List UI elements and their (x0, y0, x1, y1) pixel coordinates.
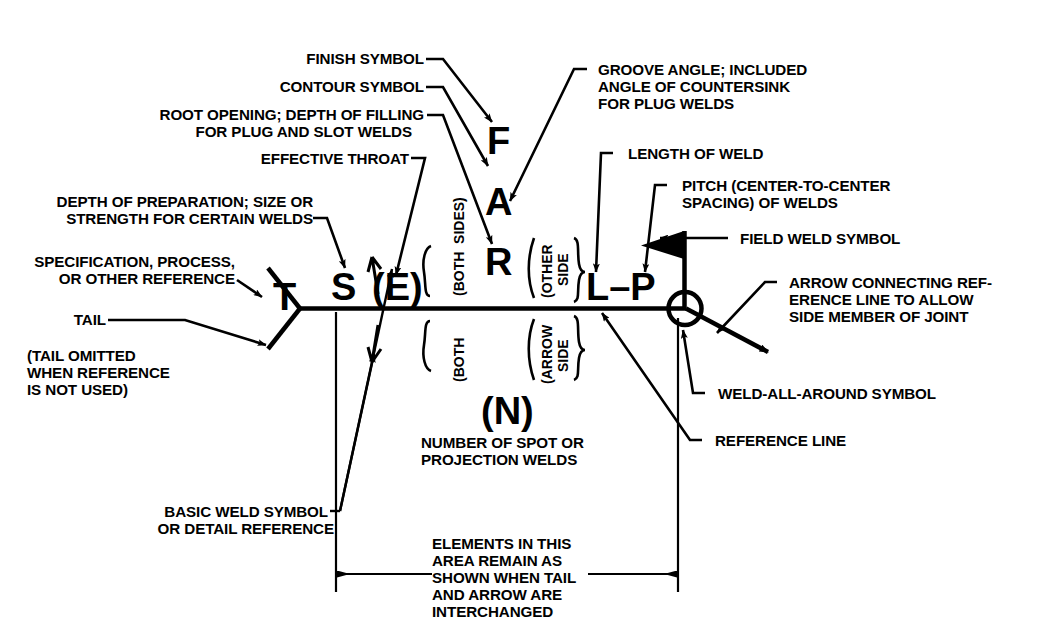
bracket-label-other-side-line1: (OTHER (540, 244, 555, 298)
label-elements-line2: AREA REMAIN AS (432, 552, 562, 570)
label-depth-preparation-line1: DEPTH OF PREPARATION; SIZE OR (0, 193, 313, 211)
welding-symbol-diagram: FINISH SYMBOL CONTOUR SYMBOL ROOT OPENIN… (0, 0, 1049, 639)
label-specification-line2: OR OTHER REFERENCE (0, 270, 235, 288)
label-tail-omitted-line1: (TAIL OMITTED (27, 347, 136, 365)
leader-pitch (645, 185, 667, 272)
label-number-spot-line2: PROJECTION WELDS (421, 451, 577, 469)
leader-specification (237, 280, 262, 297)
leader-effective-throat (396, 158, 425, 275)
symbol-contour-letter-A: A (485, 183, 512, 221)
symbol-throat-letter-E: (E) (372, 268, 423, 306)
label-specification-line1: SPECIFICATION, PROCESS, (0, 253, 235, 271)
leader-tail (108, 320, 266, 345)
label-length-of-weld: LENGTH OF WELD (628, 145, 763, 163)
symbol-finish-letter-F: F (487, 122, 510, 160)
label-root-opening-line2: FOR PLUG AND SLOT WELDS (0, 123, 412, 141)
symbol-size-letter-S: S (331, 268, 356, 306)
bracket-label-other-side-line2: SIDE (556, 253, 571, 286)
label-pitch-line1: PITCH (CENTER-TO-CENTER (682, 177, 890, 195)
bracket-label-both-sides-lower: (BOTH (452, 338, 467, 382)
other-side-paren (529, 238, 534, 298)
both-sides-brace-upper (423, 246, 431, 296)
label-tail: TAIL (0, 311, 106, 329)
leader-reference-line (602, 313, 702, 440)
label-tail-omitted-line2: WHEN REFERENCE (27, 364, 170, 382)
label-tail-omitted-line3: IS NOT USED) (27, 381, 128, 399)
arrow-side-paren (529, 319, 534, 380)
symbol-tail-letter-T: T (273, 278, 296, 316)
label-finish-symbol: FINISH SYMBOL (0, 50, 424, 68)
leader-groove-angle (510, 69, 587, 201)
bracket-label-both-sides-upper: (BOTH SIDES) (452, 197, 467, 296)
label-basic-weld-symbol-line2: OR DETAIL REFERENCE (0, 520, 334, 538)
symbol-root-letter-R: R (485, 243, 512, 281)
label-pitch-line2: SPACING) OF WELDS (682, 194, 838, 212)
label-arrow-connecting-line2: ERENCE LINE TO ALLOW (789, 291, 973, 309)
label-groove-angle-line1: GROOVE ANGLE; INCLUDED (598, 61, 807, 79)
label-root-opening-line1: ROOT OPENING; DEPTH OF FILLING (0, 106, 424, 124)
label-weld-all-around: WELD-ALL-AROUND SYMBOL (718, 385, 936, 403)
label-elements-line4: AND ARROW ARE (432, 586, 562, 604)
both-sides-brace-lower (423, 321, 431, 371)
label-depth-preparation-line2: STRENGTH FOR CERTAIN WELDS (0, 210, 313, 228)
bracket-label-arrow-side-line2: SIDE (556, 339, 571, 372)
label-basic-weld-symbol-line1: BASIC WELD SYMBOL (0, 503, 328, 521)
leader-arrow-connecting (717, 282, 777, 333)
label-reference-line: REFERENCE LINE (715, 432, 846, 450)
label-arrow-connecting-line1: ARROW CONNECTING REF- (789, 274, 992, 292)
label-groove-angle-line3: FOR PLUG WELDS (598, 95, 734, 113)
label-groove-angle-line2: ANGLE OF COUNTERSINK (598, 78, 790, 96)
label-contour-symbol: CONTOUR SYMBOL (0, 78, 424, 96)
leader-weld-all-around (683, 330, 705, 393)
label-elements-line3: SHOWN WHEN TAIL (432, 569, 576, 587)
other-side-brace (574, 238, 585, 302)
label-effective-throat: EFFECTIVE THROAT (0, 150, 409, 168)
symbol-number-letter-N: (N) (481, 392, 534, 430)
leader-depth-preparation (313, 218, 345, 268)
label-elements-line1: ELEMENTS IN THIS (432, 535, 571, 553)
arrow-side-brace (574, 316, 585, 380)
label-elements-line5: INTERCHANGED (432, 603, 553, 621)
label-arrow-connecting-line3: SIDE MEMBER OF JOINT (789, 308, 968, 326)
label-number-spot-line1: NUMBER OF SPOT OR (421, 434, 584, 452)
symbol-length-pitch: L–P (586, 268, 656, 306)
bracket-label-arrow-side-line1: (ARROW (540, 325, 555, 384)
leader-length-of-weld (596, 153, 613, 272)
label-field-weld-symbol: FIELD WELD SYMBOL (740, 230, 900, 248)
